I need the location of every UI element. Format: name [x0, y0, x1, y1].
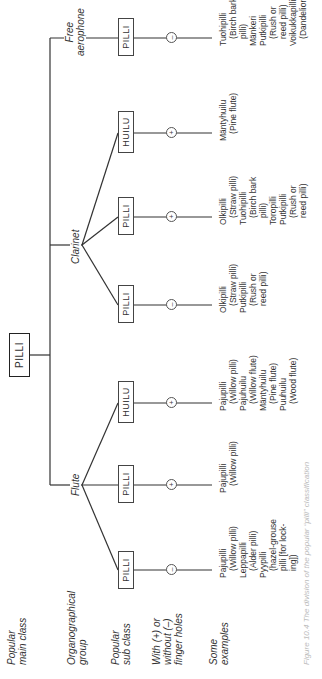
row-label-examples: Some examples	[208, 622, 230, 665]
finger-hole-indicator-icon: –	[166, 564, 177, 575]
sub-class-label: PILLI	[121, 25, 131, 49]
group-label-flute: Flute	[70, 473, 81, 497]
group-label-free-aerophone: Free aerophone	[64, 7, 86, 57]
finger-hole-indicator-icon: +	[166, 479, 177, 490]
sub-class-box: PILLI	[118, 285, 134, 323]
sub-class-label: PILLI	[121, 292, 131, 316]
sub-class-label: HUILU	[121, 117, 131, 147]
examples-list: Tuohipilli (Birch bark pilli) Mänkeri Pu…	[218, 0, 308, 46]
examples-list: Pajupilli (Willow pilli) Leppapilli (Ald…	[218, 519, 298, 578]
sub-class-box: PILLI	[118, 551, 134, 589]
sub-class-box: PILLI	[118, 465, 134, 503]
finger-hole-indicator-icon: +	[166, 211, 177, 222]
finger-hole-indicator-icon: +	[166, 397, 177, 408]
root-class-label: PILLI	[14, 342, 25, 368]
sub-class-label: PILLI	[121, 204, 131, 228]
figure-caption: Figure 10.4 The division of the popular …	[302, 462, 311, 665]
sub-class-label: PILLI	[121, 558, 131, 582]
sub-class-box: PILLI	[118, 197, 134, 235]
row-label-main-class: Popular main class	[6, 618, 28, 665]
sub-class-box: PILLI	[118, 18, 134, 56]
row-label-organographical-group: Organographical group	[66, 591, 88, 665]
examples-list: Pajupilli (Willow pilli)	[218, 441, 238, 493]
finger-hole-indicator-icon: +	[166, 127, 177, 138]
examples-list: Olkipilli (Straw pilli) Tuohipilli (Birc…	[218, 176, 308, 225]
examples-list: Olkipilli (Straw pilli) Putkipilli (Rush…	[218, 264, 268, 313]
group-label-clarinet: Clarinet	[70, 229, 81, 265]
finger-hole-indicator-icon: –	[166, 32, 177, 43]
sub-class-label: HUILU	[121, 387, 131, 417]
row-label-finger-holes: With (+) or without (–) finger holes	[151, 613, 184, 665]
sub-class-box: HUILU	[118, 381, 134, 423]
finger-hole-indicator-icon: –	[166, 299, 177, 310]
sub-class-box: HUILU	[118, 111, 134, 153]
sub-class-label: PILLI	[121, 472, 131, 496]
root-class-box: PILLI	[9, 333, 30, 377]
examples-list: Pajupilli (Willow pilli) Pajuhuilu (Will…	[218, 355, 298, 411]
row-label-sub-class: Popular sub class	[110, 623, 132, 665]
examples-list: Mäntyhuilu (Pine flute)	[218, 93, 238, 141]
diagram-canvas: Popular main class Organographical group…	[0, 0, 322, 679]
